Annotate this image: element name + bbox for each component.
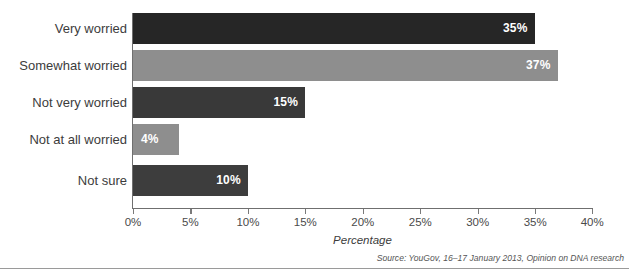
x-axis-tick-label: 35% [524,216,547,228]
x-axis-title: Percentage [133,234,592,246]
category-label-not-very-worried: Not very worried [32,87,127,118]
x-axis-tick [363,209,364,214]
category-label-not-at-all-worried: Not at all worried [29,124,127,155]
bar-row: 4% [133,124,592,155]
bar-value-label: 15% [273,87,298,118]
footer-divider [0,268,629,269]
bar-not-sure[interactable]: 10% [133,165,248,196]
bar-series: 35% 37% 15% 4% 10% [133,13,592,208]
source-note: Source: YouGov, 16–17 January 2013, Opin… [377,253,624,263]
x-axis-tick [305,209,306,214]
category-label-very-worried: Very worried [55,13,127,44]
bar-somewhat-worried[interactable]: 37% [133,50,558,81]
bar-very-worried[interactable]: 35% [133,13,535,44]
x-axis-tick-label: 10% [236,216,259,228]
bar-value-label: 37% [526,50,551,81]
x-axis-tick [133,209,134,214]
x-axis-tick-label: 40% [581,216,604,228]
x-axis-tick-label: 15% [294,216,317,228]
x-axis-tick [535,209,536,214]
bar-chart-figure: Very worried Somewhat worried Not very w… [0,0,629,280]
x-axis-tick-label: 25% [409,216,432,228]
x-axis-tick-label: 5% [182,216,199,228]
x-axis-tick-label: 20% [351,216,374,228]
bar-value-label: 35% [503,13,528,44]
category-axis-labels: Very worried Somewhat worried Not very w… [0,13,127,208]
x-axis-tick-label: 0% [125,216,142,228]
x-axis-tick [478,209,479,214]
x-axis-tick [420,209,421,214]
x-axis-tick-label: 30% [466,216,489,228]
bar-row: 10% [133,165,592,196]
bar-value-label: 10% [216,165,241,196]
bar-not-very-worried[interactable]: 15% [133,87,305,118]
bar-row: 15% [133,87,592,118]
category-label-somewhat-worried: Somewhat worried [19,50,127,81]
x-axis-tick [592,209,593,214]
category-label-not-sure: Not sure [78,165,127,196]
x-axis-tick [248,209,249,214]
bar-row: 37% [133,50,592,81]
bar-row: 35% [133,13,592,44]
x-axis-tick [190,209,191,214]
bar-value-label: 4% [141,124,159,155]
bar-not-at-all-worried[interactable]: 4% [133,124,179,155]
